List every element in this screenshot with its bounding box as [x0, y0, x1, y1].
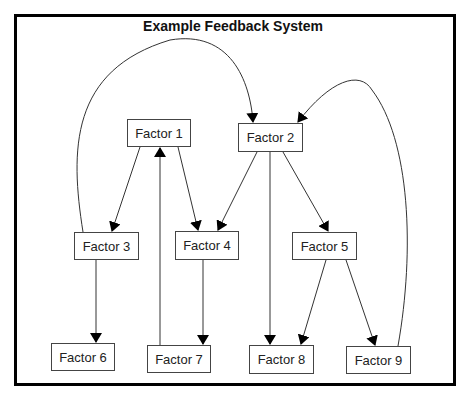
node-label: Factor 5 — [301, 239, 349, 254]
node-factor-3: Factor 3 — [74, 232, 139, 260]
node-factor-2: Factor 2 — [238, 123, 303, 152]
node-factor-6: Factor 6 — [51, 343, 115, 371]
edge-f1-f3 — [112, 147, 140, 231]
node-label: Factor 1 — [135, 126, 183, 141]
node-label: Factor 9 — [355, 353, 403, 368]
edge-f5-f9 — [346, 260, 375, 345]
node-label: Factor 6 — [59, 350, 107, 365]
node-factor-7: Factor 7 — [147, 345, 211, 373]
edge-f2-f4 — [218, 152, 257, 230]
edge-f1-f4 — [178, 147, 198, 230]
edge-f5-f8 — [301, 260, 326, 344]
node-label: Factor 4 — [183, 238, 231, 253]
node-factor-9: Factor 9 — [346, 346, 411, 374]
node-label: Factor 7 — [155, 352, 203, 367]
node-factor-1: Factor 1 — [127, 119, 191, 147]
node-label: Factor 3 — [83, 239, 131, 254]
node-label: Factor 2 — [247, 130, 295, 145]
edge-f9-f2 — [298, 80, 407, 346]
node-factor-8: Factor 8 — [249, 345, 314, 374]
node-factor-5: Factor 5 — [292, 232, 357, 260]
node-label: Factor 8 — [258, 352, 306, 367]
node-factor-4: Factor 4 — [175, 231, 239, 260]
edge-f2-f5 — [283, 152, 328, 231]
edges-layer — [0, 0, 466, 395]
